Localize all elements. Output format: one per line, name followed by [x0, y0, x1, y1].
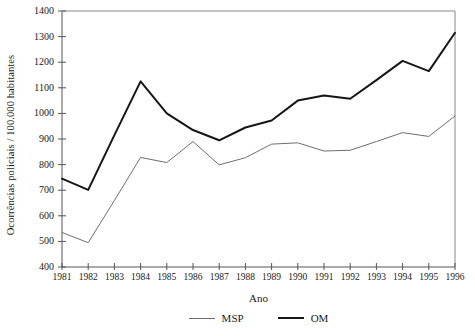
- y-tick-label: 1000: [14, 108, 54, 118]
- y-tick-label: 1300: [14, 32, 54, 42]
- y-tick-label: 1400: [14, 6, 54, 16]
- x-axis-title: Ano: [62, 292, 455, 304]
- legend-item-om: OM: [278, 312, 329, 324]
- data-series-group: [62, 33, 455, 243]
- x-tick-label: 1996: [435, 272, 475, 282]
- y-tick-label: 900: [14, 134, 54, 144]
- series-line-msp: [62, 116, 455, 243]
- legend-item-msp: MSP: [189, 312, 244, 324]
- y-tick-label: 500: [14, 236, 54, 246]
- legend-label-msp: MSP: [222, 312, 244, 324]
- line-chart-plot: [0, 0, 475, 336]
- legend-line-icon-om: [278, 317, 304, 319]
- legend-line-icon-msp: [189, 318, 215, 319]
- y-tick-label: 1100: [14, 83, 54, 93]
- y-tick-label: 400: [14, 262, 54, 272]
- axis-lines: [62, 11, 455, 267]
- y-tick-label: 800: [14, 160, 54, 170]
- y-tick-label: 700: [14, 185, 54, 195]
- y-tick-label: 600: [14, 211, 54, 221]
- y-tick-label: 1200: [14, 57, 54, 67]
- chart-figure: Ocorrências policiais / 100.000 habitant…: [0, 0, 475, 336]
- chart-legend: MSP OM: [62, 312, 455, 324]
- series-line-om: [62, 33, 455, 190]
- legend-label-om: OM: [311, 312, 329, 324]
